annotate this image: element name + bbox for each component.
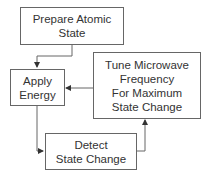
edge-detect-to-tune <box>136 120 145 151</box>
edge-apply-to-detect <box>37 105 43 151</box>
edge-prepare-to-apply <box>37 44 72 67</box>
node-tune-microwave-frequency: Tune Microwave Frequency For Maximum Sta… <box>93 52 201 119</box>
node-label: Tune Microwave Frequency For Maximum Sta… <box>105 58 189 114</box>
node-label: Apply Energy <box>19 74 55 102</box>
node-label: Prepare Atomic State <box>33 12 112 40</box>
node-detect-state-change: Detect State Change <box>45 133 137 170</box>
node-label: Detect State Change <box>56 138 126 166</box>
node-apply-energy: Apply Energy <box>10 69 65 106</box>
node-prepare-atomic-state: Prepare Atomic State <box>20 7 124 45</box>
